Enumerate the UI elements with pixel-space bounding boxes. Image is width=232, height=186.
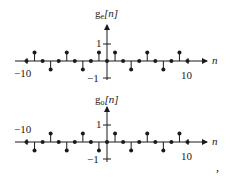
tick-label-10: 10 xyxy=(181,150,193,162)
stem-marker xyxy=(73,140,77,144)
tick-label-neg1: −1 xyxy=(87,72,99,84)
x-axis-label: n xyxy=(212,54,218,66)
stem-marker xyxy=(169,59,173,63)
stem-marker xyxy=(137,140,141,144)
stem-marker xyxy=(97,51,101,55)
y-axis-label: go[n] xyxy=(95,93,119,107)
stem-marker xyxy=(97,149,101,153)
tick-label-neg10: −10 xyxy=(14,67,32,79)
stem-marker xyxy=(161,68,165,72)
stem-marker xyxy=(41,140,45,144)
stem-marker xyxy=(145,51,149,55)
stem-marker xyxy=(121,140,125,144)
stem-marker xyxy=(186,59,190,63)
stem-marker xyxy=(113,132,117,136)
stem-marker xyxy=(49,68,53,72)
stem-marker xyxy=(81,68,85,72)
stem-marker xyxy=(81,132,85,136)
stem-marker xyxy=(186,140,190,144)
y-axis-label: ge[n] xyxy=(95,7,118,21)
stem-marker xyxy=(105,59,109,63)
stem-marker xyxy=(57,140,61,144)
stem-marker xyxy=(25,59,29,63)
tick-label-neg1: −1 xyxy=(87,153,99,165)
stem-marker xyxy=(33,149,37,153)
tick-label-1: 1 xyxy=(96,37,102,49)
stem-marker xyxy=(177,51,181,55)
stem-marker xyxy=(169,140,173,144)
stem-marker xyxy=(153,59,157,63)
stem-marker xyxy=(129,68,133,72)
stem-marker xyxy=(105,140,109,144)
stem-marker xyxy=(137,59,141,63)
stem-marker xyxy=(65,149,69,153)
stem-marker xyxy=(177,132,181,136)
stem-plots-figure: ge[n] n −10 10 1 −1 go[n] n −10 10 1 −1 … xyxy=(0,0,232,186)
stem-marker xyxy=(129,149,133,153)
stem-marker xyxy=(57,59,61,63)
tick-label-1: 1 xyxy=(96,118,102,130)
plot-go: go[n] n −10 10 1 −1 xyxy=(14,93,218,165)
stem-marker xyxy=(89,59,93,63)
stem-marker xyxy=(41,59,45,63)
plot-ge: ge[n] n −10 10 1 −1 xyxy=(14,7,218,84)
stem-marker xyxy=(153,140,157,144)
trailing-comma: , xyxy=(216,160,219,174)
stem-marker xyxy=(65,51,69,55)
stem-marker xyxy=(73,59,77,63)
stem-marker xyxy=(33,51,37,55)
stem-marker xyxy=(161,149,165,153)
x-axis-label: n xyxy=(212,135,218,147)
stem-marker xyxy=(89,140,93,144)
tick-label-neg10: −10 xyxy=(14,123,32,135)
stem-marker xyxy=(113,51,117,55)
stem-marker xyxy=(145,132,149,136)
stem-marker xyxy=(49,132,53,136)
stem-marker xyxy=(121,59,125,63)
stem-marker xyxy=(25,140,29,144)
tick-label-10: 10 xyxy=(181,69,193,81)
